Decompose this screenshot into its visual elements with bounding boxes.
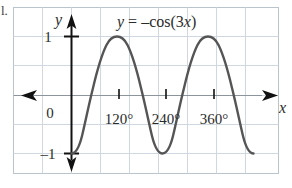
y-tick-label-neg1: –1 bbox=[40, 146, 56, 162]
y-tick-label-1: 1 bbox=[44, 29, 52, 45]
x-tick-label-360: 360° bbox=[200, 111, 229, 127]
y-tick-label-0: 0 bbox=[46, 105, 54, 121]
x-tick-label-240: 240° bbox=[152, 111, 181, 127]
y-axis-label: y bbox=[53, 11, 63, 29]
x-tick-label-120: 120° bbox=[105, 111, 134, 127]
equation-label: y = –cos(3x) bbox=[115, 13, 196, 31]
graph-canvas: y x 1 0 –1 120° 240° 360° y = –cos(3x) bbox=[0, 0, 292, 188]
x-axis-label: x bbox=[278, 99, 286, 116]
corner-item-mark: l. bbox=[1, 4, 8, 17]
trig-graph-figure: l. bbox=[0, 0, 292, 188]
equation-var: x bbox=[183, 13, 191, 30]
equation-close: ) bbox=[191, 13, 196, 31]
equation-equals: = –cos(3 bbox=[124, 13, 184, 31]
